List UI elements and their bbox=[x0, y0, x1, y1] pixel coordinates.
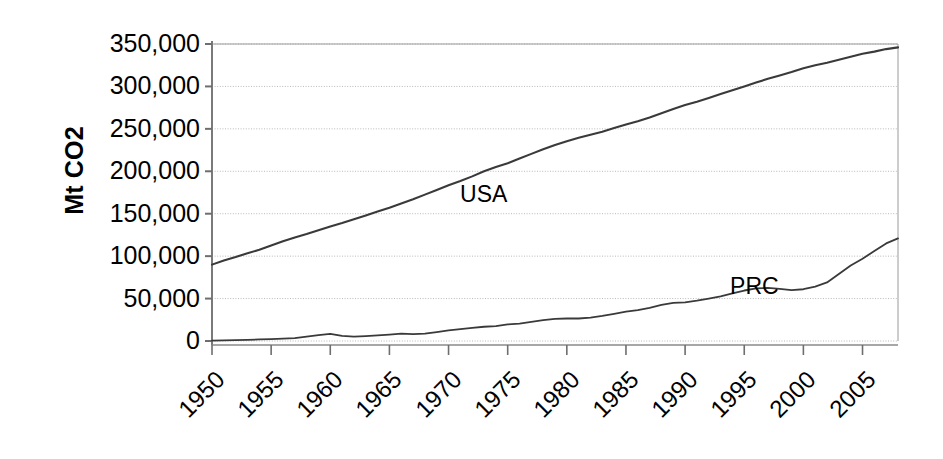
x-tick-label: 1975 bbox=[465, 367, 524, 426]
x-tick-label: 1995 bbox=[702, 367, 761, 426]
series-label-usa: USA bbox=[460, 183, 507, 206]
x-tick-label: 1960 bbox=[288, 367, 347, 426]
x-tick-label: 2000 bbox=[761, 367, 820, 426]
x-tick-label: 1980 bbox=[524, 367, 583, 426]
x-tick-label: 1990 bbox=[643, 367, 702, 426]
x-axis-tick-labels: 1950195519601965197019751980198519901995… bbox=[0, 0, 943, 459]
x-tick-label: 1965 bbox=[347, 367, 406, 426]
x-tick-label: 1970 bbox=[406, 367, 465, 426]
x-tick-label: 2005 bbox=[820, 367, 879, 426]
x-tick-label: 1955 bbox=[229, 367, 288, 426]
co2-emissions-line-chart: Mt CO2 050,000100,000150,000200,000250,0… bbox=[0, 0, 943, 459]
x-tick-label: 1950 bbox=[170, 367, 229, 426]
series-label-prc: PRC bbox=[730, 275, 779, 298]
x-tick-label: 1985 bbox=[584, 367, 643, 426]
